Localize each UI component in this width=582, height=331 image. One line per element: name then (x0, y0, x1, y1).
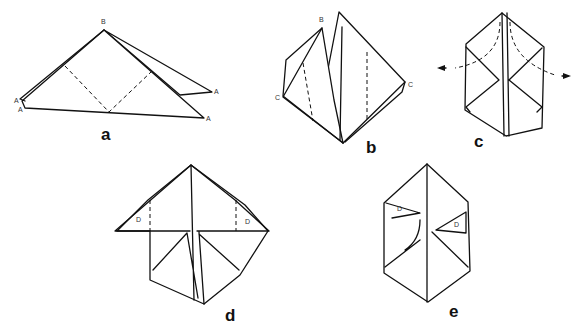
step-label-d: d (225, 306, 235, 326)
point-label: D (245, 218, 250, 225)
point-label: A (14, 97, 19, 104)
point-label: D (454, 221, 459, 228)
point-label: B (101, 18, 106, 25)
step-label-e: e (449, 302, 458, 322)
step-e-figure (384, 164, 470, 302)
point-label: C (408, 81, 413, 88)
point-label: A (18, 106, 23, 113)
point-label: A (214, 88, 219, 95)
step-c-figure (437, 13, 571, 136)
step-label-c: c (474, 132, 483, 152)
point-label: D (397, 205, 402, 212)
step-a-figure (20, 30, 212, 118)
fold-drawings (0, 0, 582, 331)
point-label: A (206, 115, 211, 122)
step-b-figure (283, 12, 405, 143)
step-label-a: a (101, 125, 110, 145)
origami-diagram: B A A A A a B C C b c D D d D D e (0, 0, 582, 331)
step-label-b: b (366, 138, 376, 158)
point-label: B (319, 16, 324, 23)
point-label: D (136, 216, 141, 223)
point-label: C (275, 94, 280, 101)
step-d-figure (115, 165, 269, 304)
